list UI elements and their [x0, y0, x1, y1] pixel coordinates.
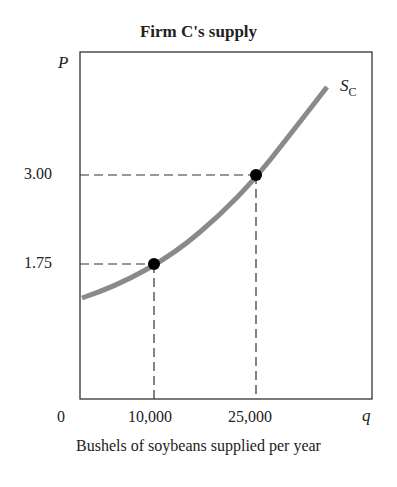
x-tick-10000: 10,000 [128, 408, 172, 426]
x-axis-label: Bushels of soybeans supplied per year [0, 437, 397, 455]
x-axis-end-label: q [362, 406, 371, 426]
point-10000-1.75 [148, 258, 160, 270]
supply-curve [82, 87, 327, 298]
y-axis-label: P [58, 53, 68, 73]
point-25000-3.00 [250, 169, 262, 181]
plot-frame [80, 52, 372, 399]
curve-label-main: S [340, 76, 349, 95]
x-tick-25000: 25,000 [228, 408, 272, 426]
y-tick-3.00: 3.00 [24, 165, 52, 183]
curve-label: SC [340, 76, 357, 96]
curve-label-sub: C [349, 85, 357, 99]
y-tick-1.75: 1.75 [24, 254, 52, 272]
origin-label: 0 [57, 408, 65, 426]
